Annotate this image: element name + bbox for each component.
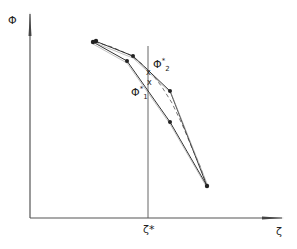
curve-1	[93, 42, 207, 186]
cross-mark-phi1: x	[147, 78, 152, 87]
y-axis-arrow-icon	[29, 12, 32, 36]
marker-dot	[125, 59, 129, 63]
x-axis-label: ζ	[276, 226, 282, 237]
diagram-canvas: x x	[0, 0, 297, 249]
marker-dot	[205, 184, 209, 188]
phi2-star-label: Φ*2	[153, 58, 170, 73]
phi1-star-label: Φ*1	[131, 86, 148, 101]
x-axis-arrow-icon	[262, 217, 284, 220]
marker-dot	[168, 89, 172, 93]
y-axis-label: Φ	[8, 15, 17, 26]
marker-dot	[168, 120, 172, 124]
cross-mark-phi2: x	[146, 68, 151, 77]
curve-2-shadow	[95, 43, 208, 186]
curve-2	[95, 41, 207, 186]
phi2-base: Φ	[153, 58, 162, 71]
phi2-sub: 2	[165, 65, 169, 73]
marker-dot	[94, 39, 98, 43]
curve-1-shadow	[93, 44, 206, 186]
phi1-base: Φ	[131, 86, 140, 99]
phi1-sub: 1	[143, 93, 147, 101]
marker-dot	[131, 54, 135, 58]
zeta-star-label: ζ*	[143, 224, 154, 235]
phi2-sup: *	[162, 57, 166, 65]
dashed-curve	[95, 42, 207, 186]
phi1-sup: *	[140, 85, 144, 93]
